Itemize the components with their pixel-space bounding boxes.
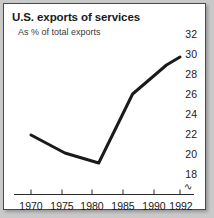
y-tick-label-18: 18 [185,168,197,180]
y-tick-label-24: 24 [185,108,197,120]
x-tick-label-1990: 1990 [142,200,165,212]
plot-area [4,4,207,211]
chart-panel: U.S. exports of services As % of total e… [3,3,206,210]
y-tick-label-32: 32 [185,28,197,40]
x-tick-label-1975: 1975 [50,200,73,212]
axis-break-icon: ∿ [184,182,192,192]
y-tick-label-20: 20 [185,148,197,160]
data-line-series [31,57,180,163]
y-tick-label-28: 28 [185,68,197,80]
x-tick-label-1980: 1980 [80,200,103,212]
y-tick-label-30: 30 [185,48,197,60]
y-tick-label-22: 22 [185,128,197,140]
x-tick-label-1985: 1985 [111,200,134,212]
chart-figure: U.S. exports of services As % of total e… [0,0,214,218]
y-tick-label-26: 26 [185,88,197,100]
x-axis-ticks [31,190,180,195]
x-tick-label-1992: 1992 [169,200,192,212]
x-tick-label-1970: 1970 [19,200,42,212]
